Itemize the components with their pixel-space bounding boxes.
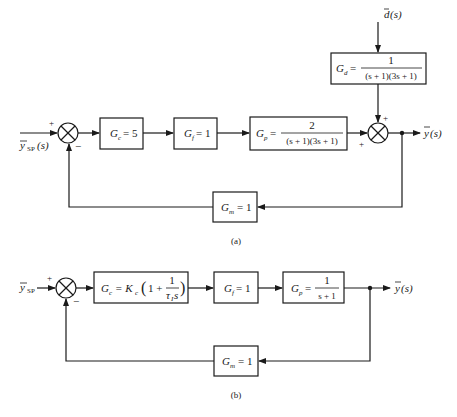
- setpoint-label-b: y SP: [19, 281, 35, 295]
- output-symbol-a: y: [423, 127, 429, 139]
- gf-expr-b: = 1: [236, 282, 250, 294]
- gc-eq-b: = K: [115, 282, 133, 294]
- gc-numerator-b: 1: [169, 274, 175, 286]
- kc-sub-b: c: [135, 289, 139, 297]
- caption-a: (a): [231, 236, 241, 246]
- minus-sign-feedback-a: −: [75, 140, 81, 152]
- gd-sub: d: [344, 69, 348, 77]
- gp-eq-b: =: [305, 282, 311, 294]
- gp-denominator-b: s + 1: [318, 291, 336, 301]
- gp-label-b: G: [291, 282, 299, 294]
- gf-label-b: G: [224, 282, 232, 294]
- paren-open-b: (: [141, 279, 146, 297]
- plus-sign-input-b: +: [47, 273, 52, 283]
- setpoint-label-a: y SP (s): [19, 139, 49, 153]
- gp-numerator-b: 1: [324, 274, 330, 286]
- gd-eq: =: [350, 62, 356, 74]
- paren-close-b: ): [180, 279, 185, 297]
- gf-sub-a: f: [192, 134, 195, 142]
- gm-expr-b: = 1: [238, 355, 252, 367]
- gd-label: G: [336, 62, 344, 74]
- gp-label-a: G: [256, 127, 264, 139]
- gm-sub-a: m: [229, 208, 234, 216]
- plus-sign-process-a: +: [359, 139, 364, 149]
- gc-label-a: G: [110, 127, 118, 139]
- gc-den-s: s: [174, 289, 178, 301]
- one-plus-b: 1 +: [148, 282, 162, 294]
- gc-sub-b: c: [109, 289, 113, 297]
- plus-sign-disturbance-a: +: [383, 113, 388, 123]
- diagram-b-labels: y SP + − G c = K c ( 1 + 1 τ I s ) G f =…: [19, 273, 413, 400]
- setpoint-subscript: SP: [27, 145, 35, 153]
- disturbance-arg: (s): [390, 8, 402, 21]
- gp-denominator-a: (s + 1)(3s + 1): [286, 136, 338, 146]
- gp-sub-a: p: [263, 134, 268, 142]
- gp-eq-a: =: [270, 127, 276, 139]
- setpoint-symbol-b: y: [19, 281, 25, 293]
- gf-sub-b: f: [232, 289, 235, 297]
- plus-sign-input-a: +: [49, 118, 54, 128]
- summing-junction-2a: [368, 123, 388, 143]
- gm-sub-b: m: [230, 362, 235, 370]
- caption-b: (b): [231, 390, 242, 400]
- gm-expr-a: = 1: [237, 201, 251, 213]
- block-diagram-canvas: + − y SP (s) G c = 5 G f = 1 G p = 2 (s …: [0, 0, 457, 417]
- output-arg-a: (s): [430, 127, 442, 140]
- gp-sub-b: p: [298, 289, 303, 297]
- gf-label-a: G: [184, 127, 192, 139]
- diagram-a: [20, 22, 426, 222]
- setpoint-arg: (s): [37, 139, 49, 152]
- gm-label-b: G: [222, 355, 230, 367]
- minus-sign-feedback-b: −: [73, 295, 79, 307]
- gp-numerator-a: 2: [309, 119, 315, 131]
- gc-sub-a: c: [118, 134, 122, 142]
- gc-expr-a: = 5: [123, 127, 138, 139]
- setpoint-symbol: y: [19, 139, 25, 151]
- output-symbol-b: y: [394, 282, 400, 294]
- output-arg-b: (s): [401, 282, 413, 295]
- gc-label-b: G: [101, 282, 109, 294]
- gd-denominator: (s + 1)(3s + 1): [365, 71, 417, 81]
- gm-label-a: G: [221, 201, 229, 213]
- feedback-path-to-gm-b: [259, 288, 370, 361]
- gd-numerator: 1: [388, 54, 394, 66]
- setpoint-subscript-b: SP: [27, 287, 35, 295]
- gf-expr-a: = 1: [196, 127, 210, 139]
- feedback-path-to-summer-b: [66, 299, 214, 361]
- feedback-path-to-summer-a: [69, 144, 213, 207]
